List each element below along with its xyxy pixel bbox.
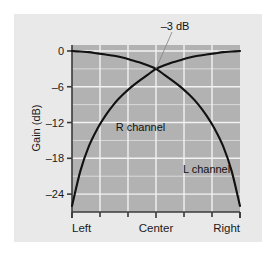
x-axis-tick-labels: LeftCenterRight [72,222,241,234]
x-axis-tick-label: Right [213,222,241,234]
y-axis-title: Gain (dB) [30,104,42,151]
y-axis-tick-label: 0 [58,45,64,57]
pan-law-chart: 0–6–12–18–24 LeftCenterRight Gain (dB) –… [0,0,276,255]
x-axis-tick-label: Left [72,222,92,234]
annotation-r-channel: R channel [116,121,166,133]
annotation-l-channel: L channel [183,163,230,175]
x-axis-tick-label: Center [139,222,174,234]
y-axis-tick-label: –6 [52,81,64,93]
y-axis-tick-label: –12 [46,117,64,129]
y-axis-tick-label: –18 [46,152,64,164]
y-axis-tick-labels: 0–6–12–18–24 [46,45,64,200]
x-axis-ticks [72,212,240,218]
figure-root: 0–6–12–18–24 LeftCenterRight Gain (dB) –… [0,0,276,255]
y-axis-tick-label: –24 [46,188,64,200]
annotation-minus-3db: –3 dB [161,20,190,32]
